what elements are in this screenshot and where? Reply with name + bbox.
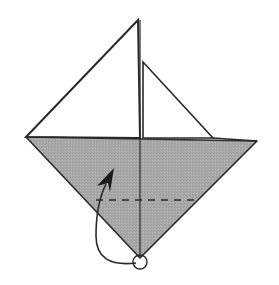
base-triangle [26, 137, 257, 258]
small-sail [143, 62, 213, 138]
diagram-canvas [0, 0, 279, 285]
origami-diagram: Origami fold step: fold bottom point up … [0, 0, 279, 285]
large-sail [26, 20, 140, 138]
